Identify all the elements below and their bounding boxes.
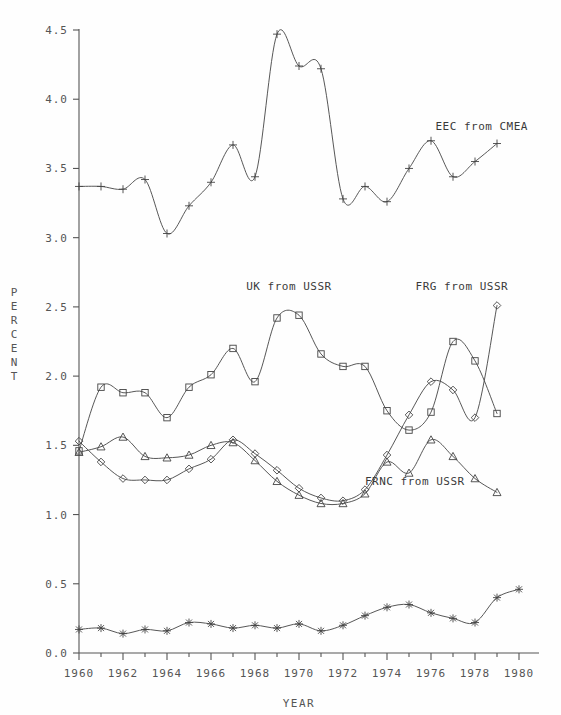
y-axis-title-char: R	[11, 314, 18, 327]
y-tick-label: 1.5	[45, 439, 68, 452]
y-tick-label: 1.0	[45, 509, 68, 522]
x-tick-label: 1962	[108, 667, 139, 680]
series-label-frg-from-ussr: FRG from USSR	[416, 280, 509, 293]
series-label-uk-from-ussr: UK from USSR	[246, 280, 331, 293]
y-tick-label: 0.0	[45, 647, 68, 660]
x-tick-label: 1978	[460, 667, 491, 680]
y-tick-label: 4.0	[45, 93, 68, 106]
y-tick-label: 3.0	[45, 232, 68, 245]
series-line-eec-from-cmea	[79, 30, 497, 234]
y-axis-title-char: E	[11, 300, 18, 313]
series-label-frnc-from-ussr: FRNC from USSR	[365, 475, 465, 488]
x-tick-label: 1960	[64, 667, 95, 680]
x-tick-label: 1976	[416, 667, 447, 680]
x-tick-label: 1980	[504, 667, 535, 680]
y-tick-label: 3.5	[45, 162, 68, 175]
series-label-eec-from-cmea: EEC from CMEA	[435, 120, 528, 133]
chart-svg: 0.00.51.01.52.02.53.03.54.04.51960196219…	[0, 0, 561, 715]
x-tick-label: 1964	[152, 667, 183, 680]
x-tick-label: 1968	[240, 667, 271, 680]
y-tick-label: 0.5	[45, 578, 68, 591]
x-axis-title: YEAR	[283, 697, 316, 710]
y-axis-title-char: P	[11, 286, 18, 299]
y-axis-title-char: C	[11, 328, 18, 341]
series-line-frnc-from-ussr	[79, 437, 497, 505]
y-tick-label: 4.5	[45, 24, 68, 37]
y-tick-label: 2.0	[45, 370, 68, 383]
y-axis-title-char: T	[11, 370, 18, 383]
x-tick-label: 1966	[196, 667, 227, 680]
x-tick-label: 1972	[328, 667, 359, 680]
y-axis-title-char: N	[11, 356, 18, 369]
chart-container: 0.00.51.01.52.02.53.03.54.04.51960196219…	[0, 0, 561, 715]
y-axis-title-char: E	[11, 342, 18, 355]
y-tick-label: 2.5	[45, 301, 68, 314]
x-tick-label: 1974	[372, 667, 403, 680]
x-tick-label: 1970	[284, 667, 315, 680]
